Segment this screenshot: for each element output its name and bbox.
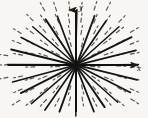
slope-tick [106, 2, 110, 10]
slope-tick [14, 53, 23, 55]
slope-tick [12, 100, 20, 105]
slope-tick [130, 89, 138, 93]
slope-tick [130, 41, 138, 44]
field-ray [11, 49, 73, 64]
slope-tick [14, 89, 22, 93]
slope-tick [130, 28, 138, 33]
slope-tick [40, 40, 47, 45]
slope-tick [68, 25, 70, 34]
slope-tick [14, 76, 23, 78]
slope-tick [119, 16, 125, 23]
slope-tick [27, 14, 33, 20]
slope-tick [130, 53, 139, 55]
field-ray [13, 66, 74, 82]
slope-tick [0, 54, 8, 55]
slope-tick [26, 28, 33, 33]
ray-layer [7, 9, 138, 115]
slope-tick [81, 13, 82, 22]
direction-field-canvas [0, 0, 148, 118]
slope-tick [105, 28, 111, 35]
slope-tick [82, 97, 83, 106]
slope-tick [68, 14, 69, 23]
slope-tick [55, 98, 59, 106]
field-ray [59, 68, 75, 112]
slope-tick [40, 99, 46, 106]
direction-field-figure: y x [0, 0, 148, 118]
y-axis-label: y [79, 3, 83, 12]
slope-tick [69, 2, 70, 11]
slope-tick [13, 29, 21, 34]
slope-tick [104, 52, 113, 55]
slope-tick [0, 77, 8, 79]
slope-tick [93, 98, 97, 106]
slope-tick [38, 76, 46, 79]
field-ray [78, 50, 136, 65]
slope-tick [81, 25, 83, 34]
slope-tick [69, 97, 71, 106]
slope-tick [131, 99, 139, 104]
slope-tick [40, 26, 46, 33]
x-axis-label: x [137, 64, 141, 73]
slope-tick [12, 40, 20, 43]
slope-tick [40, 3, 44, 11]
slope-tick [69, 38, 72, 47]
slope-tick [54, 2, 57, 11]
slope-tick [94, 1, 97, 10]
slope-tick [105, 98, 111, 105]
